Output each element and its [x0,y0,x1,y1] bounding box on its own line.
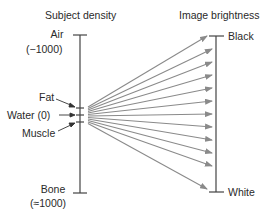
air-value: (−1000) [26,43,62,55]
bone-value: (≈1000) [30,197,66,209]
fat-label: Fat [39,91,54,103]
air-label: Air [40,28,74,40]
subject-density-axis [73,35,87,193]
white-label: White [228,186,255,198]
density-brightness-diagram: Subject density Air (−1000) Fat Water (0… [0,0,269,216]
label-pointers [56,99,75,131]
image-brightness-title: Image brightness [179,9,260,21]
subject-density-title: Subject density [45,9,116,21]
bone-label: Bone [36,183,70,195]
water-label: Water (0) [7,109,50,121]
mapping-arrows [88,36,212,189]
muscle-label: Muscle [22,127,55,139]
black-label: Black [228,30,254,42]
